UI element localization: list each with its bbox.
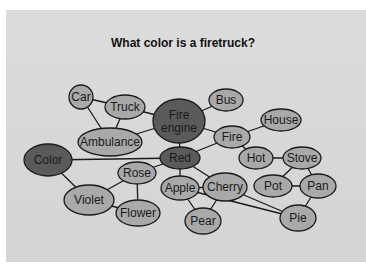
node-label: Red <box>169 151 191 165</box>
node-red: Red <box>160 147 200 169</box>
node-hot: Hot <box>239 147 273 169</box>
node-violet: Violet <box>64 185 114 215</box>
node-label: Fire <box>169 108 190 122</box>
node-label: House <box>264 113 299 127</box>
node-label: Car <box>71 90 90 104</box>
node-pear: Pear <box>185 208 221 234</box>
node-house: House <box>261 109 301 131</box>
node-ambulance: Ambulance <box>78 128 142 156</box>
node-layer: CarTruckFireengineBusHouseAmbulanceFireC… <box>24 85 336 234</box>
node-pan: Pan <box>300 174 336 198</box>
node-color: Color <box>24 144 72 176</box>
node-pie: Pie <box>280 205 316 231</box>
node-stove: Stove <box>283 147 321 169</box>
node-rose: Rose <box>118 162 156 184</box>
node-truck: Truck <box>105 95 145 119</box>
node-label: Pan <box>307 179 328 193</box>
node-label: Pot <box>264 179 283 193</box>
semantic-network-diagram: CarTruckFireengineBusHouseAmbulanceFireC… <box>0 0 366 268</box>
node-fire: Fire <box>214 126 250 148</box>
node-label: Pear <box>190 214 215 228</box>
node-label: Violet <box>74 193 104 207</box>
node-label: engine <box>161 121 197 135</box>
node-fire-engine: Fireengine <box>153 99 205 143</box>
node-apple: Apple <box>161 176 199 200</box>
node-bus: Bus <box>209 89 243 111</box>
node-label: Truck <box>110 100 141 114</box>
node-label: Rose <box>123 166 151 180</box>
node-label: Flower <box>120 206 156 220</box>
node-pot: Pot <box>254 175 292 197</box>
node-car: Car <box>69 85 93 109</box>
node-label: Color <box>34 153 63 167</box>
node-cherry: Cherry <box>203 173 247 201</box>
node-label: Hot <box>247 151 266 165</box>
node-label: Cherry <box>207 180 243 194</box>
node-label: Stove <box>287 151 318 165</box>
node-flower: Flower <box>116 200 160 226</box>
node-label: Bus <box>216 93 237 107</box>
node-label: Pie <box>289 211 307 225</box>
node-label: Fire <box>222 130 243 144</box>
node-label: Apple <box>165 181 196 195</box>
node-label: Ambulance <box>80 135 140 149</box>
